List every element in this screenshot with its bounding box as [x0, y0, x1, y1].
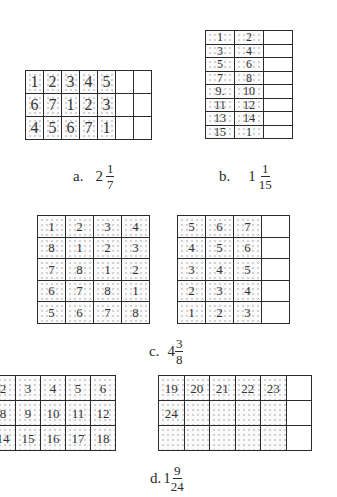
shaded-cell: 14: [0, 426, 16, 451]
shaded-cell: 1: [98, 117, 116, 140]
caption-a: a. 2 1 7: [73, 162, 114, 191]
empty-cell: [286, 376, 312, 401]
shaded-cell: 24: [159, 401, 185, 426]
grid-row: 34: [206, 44, 293, 58]
shaded-cell: 16: [41, 426, 66, 451]
grid-row: 151: [206, 125, 293, 139]
shaded-cell: 21: [210, 376, 236, 401]
shaded-cell: 1: [178, 302, 206, 324]
shaded-cell: 8: [38, 237, 66, 259]
shaded-cell: 6: [206, 216, 234, 238]
grid-row: 456: [178, 237, 290, 259]
shaded-cell: 23: [261, 376, 287, 401]
grid-row: [159, 426, 312, 451]
shaded-cell: 2: [94, 237, 122, 259]
shaded-cell: 4: [206, 259, 234, 281]
shaded-cell: 5: [178, 216, 206, 238]
shaded-cell: [159, 426, 185, 451]
shaded-cell: 6: [234, 237, 262, 259]
shaded-cell: 8: [122, 302, 150, 324]
shaded-cell: [261, 401, 287, 426]
empty-cell: [262, 259, 290, 281]
grid-row: 12: [206, 31, 293, 45]
caption-c-fraction: 3 8: [175, 337, 184, 366]
shaded-cell: 8: [94, 280, 122, 302]
shaded-cell: 7: [206, 71, 235, 85]
empty-cell: [286, 426, 312, 451]
empty-cell: [264, 98, 293, 112]
shaded-cell: 2: [206, 302, 234, 324]
caption-a-numerator: 1: [106, 162, 115, 177]
grid-row: 7812: [38, 259, 150, 281]
grid-row: 12345: [26, 71, 152, 94]
shaded-cell: 18: [91, 426, 116, 451]
shaded-cell: 8: [66, 259, 94, 281]
shaded-cell: 1: [122, 280, 150, 302]
grid-row: 78: [206, 71, 293, 85]
caption-b-letter: b.: [219, 168, 230, 185]
shaded-cell: 7: [38, 259, 66, 281]
shaded-cell: 4: [234, 280, 262, 302]
caption-a-denominator: 7: [107, 177, 114, 191]
shaded-cell: 1: [62, 94, 80, 117]
shaded-cell: 1: [206, 31, 235, 45]
caption-d-fraction: 9 24: [171, 464, 184, 493]
grid-row: 56: [206, 58, 293, 72]
grid-c-right: 567456345234123: [177, 215, 290, 324]
grid-row: 1920212223: [159, 376, 312, 401]
shaded-cell: 6: [235, 58, 264, 72]
shaded-cell: 10: [235, 85, 264, 99]
empty-cell: [262, 302, 290, 324]
shaded-cell: 2: [66, 216, 94, 238]
grid-d-right: 192021222324: [158, 375, 312, 451]
shaded-cell: 6: [91, 376, 116, 401]
shaded-cell: 5: [206, 237, 234, 259]
shaded-cell: 7: [234, 216, 262, 238]
shaded-cell: 6: [62, 117, 80, 140]
shaded-cell: 7: [44, 94, 62, 117]
shaded-cell: 2: [0, 376, 16, 401]
shaded-cell: 1: [26, 71, 44, 94]
shaded-cell: 11: [66, 401, 91, 426]
caption-a-letter: a.: [73, 168, 83, 185]
shaded-cell: 5: [234, 259, 262, 281]
shaded-cell: 11: [206, 98, 235, 112]
grid-row: 23456: [0, 376, 116, 401]
shaded-cell: 3: [98, 94, 116, 117]
shaded-cell: 2: [122, 259, 150, 281]
empty-cell: [264, 112, 293, 126]
shaded-cell: 3: [62, 71, 80, 94]
empty-cell: [116, 71, 134, 94]
empty-cell: [134, 71, 152, 94]
shaded-cell: 9.: [206, 85, 235, 99]
empty-cell: [264, 85, 293, 99]
grid-d-left: 23456891011121415161718: [0, 375, 116, 451]
shaded-cell: 2: [80, 94, 98, 117]
shaded-cell: 2: [44, 71, 62, 94]
shaded-cell: [261, 426, 287, 451]
grid-row: 67123: [26, 94, 152, 117]
shaded-cell: 5: [98, 71, 116, 94]
shaded-cell: 10: [41, 401, 66, 426]
shaded-cell: 1: [66, 237, 94, 259]
empty-cell: [134, 117, 152, 140]
empty-cell: [286, 401, 312, 426]
caption-c: c. 4 3 8: [149, 337, 183, 366]
shaded-cell: 15: [16, 426, 41, 451]
shaded-cell: 3: [122, 237, 150, 259]
shaded-cell: 3: [206, 44, 235, 58]
shaded-cell: 6: [38, 280, 66, 302]
grid-row: 1112: [206, 98, 293, 112]
empty-cell: [116, 94, 134, 117]
empty-cell: [264, 125, 293, 139]
shaded-cell: [210, 401, 236, 426]
shaded-cell: 9: [16, 401, 41, 426]
shaded-cell: 5: [66, 376, 91, 401]
shaded-cell: [184, 426, 210, 451]
caption-b-numerator: 1: [261, 162, 270, 177]
empty-cell: [262, 280, 290, 302]
caption-c-denominator: 8: [176, 352, 183, 366]
shaded-cell: 4: [80, 71, 98, 94]
grid-row: 123: [178, 302, 290, 324]
shaded-cell: 14: [235, 112, 264, 126]
